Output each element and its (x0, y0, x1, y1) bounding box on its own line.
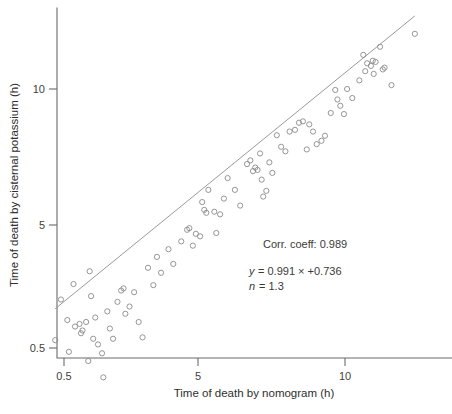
data-point (267, 160, 272, 165)
data-point (292, 127, 297, 132)
x-tickmarks (64, 358, 345, 366)
data-point (123, 311, 128, 316)
data-point (368, 63, 373, 68)
data-point (145, 265, 150, 270)
data-point (58, 297, 63, 302)
data-point (86, 358, 91, 363)
data-point (101, 375, 106, 380)
scatter-plot: 0.5 5 10 0.5 5 10 Time of death by nomog… (0, 0, 452, 414)
data-point (361, 52, 366, 57)
data-point (279, 144, 284, 149)
annotation-corr-coeff: Corr. coeff: 0.989 (263, 238, 347, 250)
data-point (328, 110, 333, 115)
data-point (335, 97, 340, 102)
data-point (71, 281, 76, 286)
data-point (127, 304, 132, 309)
data-point (259, 177, 264, 182)
data-point (218, 212, 223, 217)
data-point (93, 315, 98, 320)
data-point (132, 290, 137, 295)
data-point (179, 239, 184, 244)
data-point (225, 176, 230, 181)
data-point (283, 149, 288, 154)
y-tick-label-0: 0.5 (30, 342, 45, 354)
data-point (314, 142, 319, 147)
annotation-n-body: = 1.3 (259, 280, 284, 292)
data-point (88, 294, 93, 299)
data-point (412, 31, 417, 36)
data-point (95, 342, 100, 347)
annotation-n-variable: n (249, 280, 255, 292)
data-point (221, 196, 226, 201)
data-point (140, 335, 145, 340)
y-axis-title: Time of death by cisternal potassium (h) (8, 83, 20, 287)
data-point (378, 44, 383, 49)
x-tick-label-1: 5 (195, 370, 201, 382)
figure-container: 0.5 5 10 0.5 5 10 Time of death by nomog… (0, 0, 452, 414)
data-point-group (53, 31, 418, 380)
data-point (200, 199, 205, 204)
data-point (304, 147, 309, 152)
data-point (389, 83, 394, 88)
data-point (84, 319, 89, 324)
data-point (77, 321, 82, 326)
data-point (166, 247, 171, 252)
data-point (105, 309, 110, 314)
data-point (371, 71, 376, 76)
data-point (136, 319, 141, 324)
data-point (338, 103, 343, 108)
data-point (206, 187, 211, 192)
data-point (261, 194, 266, 199)
data-point (158, 270, 163, 275)
y-tick-label-1: 5 (39, 219, 45, 231)
data-point (110, 336, 115, 341)
data-point (363, 69, 368, 74)
data-point (287, 129, 292, 134)
data-point (151, 283, 156, 288)
data-point (198, 234, 203, 239)
data-point (107, 326, 112, 331)
data-point (65, 317, 70, 322)
data-point (345, 86, 350, 91)
data-point (248, 158, 253, 163)
data-point (99, 351, 104, 356)
data-point (365, 61, 370, 66)
data-point (115, 299, 120, 304)
data-point (171, 261, 176, 266)
data-point (322, 133, 327, 138)
data-point (274, 133, 279, 138)
data-point (270, 170, 275, 175)
data-point (87, 269, 92, 274)
annotation-n: n = 1.3 (249, 280, 284, 292)
data-point (214, 230, 219, 235)
data-point (310, 129, 315, 134)
data-point (307, 122, 312, 127)
data-point (232, 187, 237, 192)
data-point (357, 78, 362, 83)
annotation-equation-variable: y (248, 265, 256, 277)
regression-line (55, 16, 415, 309)
data-point (154, 254, 159, 259)
data-point (66, 349, 71, 354)
data-point (333, 87, 338, 92)
annotation-equation-body: = 0.991 × +0.736 (258, 265, 342, 277)
x-tick-label-0: 0.5 (56, 370, 71, 382)
data-point (350, 95, 355, 100)
annotation-equation: y = 0.991 × +0.736 (248, 265, 342, 277)
x-tick-label-2: 10 (339, 370, 351, 382)
data-point (319, 138, 324, 143)
data-point (341, 111, 346, 116)
axis-frame (57, 8, 452, 358)
y-tick-label-2: 10 (33, 83, 45, 95)
data-point (91, 336, 96, 341)
data-point (238, 203, 243, 208)
data-point (212, 209, 217, 214)
data-point (190, 243, 195, 248)
data-point (257, 151, 262, 156)
data-point (264, 188, 269, 193)
y-tickmarks (49, 89, 57, 348)
x-axis-title: Time of death by nomogram (h) (174, 387, 335, 399)
